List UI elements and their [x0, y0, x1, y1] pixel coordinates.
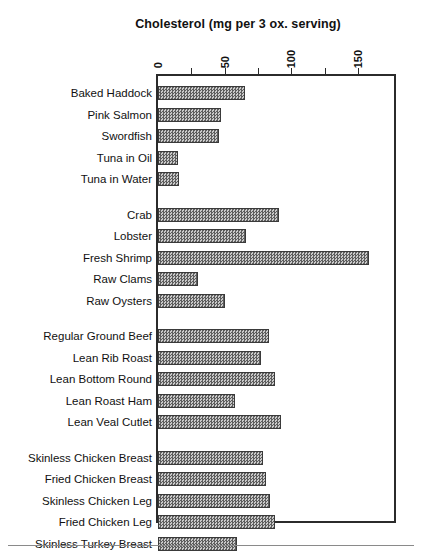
bar-category-label: Skinless Chicken Breast	[28, 451, 152, 465]
cholesterol-bar-chart: Cholesterol (mg per 3 ox. serving) 05010…	[0, 0, 422, 553]
bar-category-label: Lean Rib Roast	[73, 351, 152, 365]
bar-category-label: Raw Clams	[93, 272, 152, 286]
bar-row: Skinless Turkey Breast	[0, 537, 422, 551]
bar-category-label: Tuna in Water	[81, 172, 152, 186]
bar	[158, 537, 237, 551]
bar-category-label: Fresh Shrimp	[83, 251, 152, 265]
bar-category-label: Pink Salmon	[87, 108, 152, 122]
bar-category-label: Raw Oysters	[86, 294, 152, 308]
bar-category-label: Fried Chicken Leg	[59, 515, 152, 529]
x-axis-tick-labels: 050100150	[0, 38, 422, 68]
bar-category-label: Fried Chicken Breast	[45, 472, 152, 486]
plot-area-frame	[156, 74, 396, 523]
bar-category-label: Regular Ground Beef	[43, 329, 152, 343]
bar-category-label: Skinless Chicken Leg	[42, 494, 152, 508]
bar-category-label: Lean Roast Ham	[66, 394, 152, 408]
page-bottom-rule	[8, 545, 414, 546]
chart-title: Cholesterol (mg per 3 ox. serving)	[0, 17, 422, 31]
x-axis-tick-label-150: 150	[353, 50, 364, 68]
bar-category-label: Tuna in Oil	[97, 151, 152, 165]
bar-category-label: Lean Veal Cutlet	[68, 415, 152, 429]
bar-category-label: Skinless Turkey Breast	[35, 537, 152, 551]
x-axis-tick-label-50: 50	[220, 56, 231, 68]
bar-category-label: Lobster	[114, 229, 152, 243]
x-axis-tick-label-100: 100	[286, 50, 297, 68]
bar-category-label: Baked Haddock	[71, 86, 152, 100]
bar-category-label: Crab	[127, 208, 152, 222]
bar-category-label: Lean Bottom Round	[50, 372, 152, 386]
bar-category-label: Swordfish	[102, 129, 153, 143]
